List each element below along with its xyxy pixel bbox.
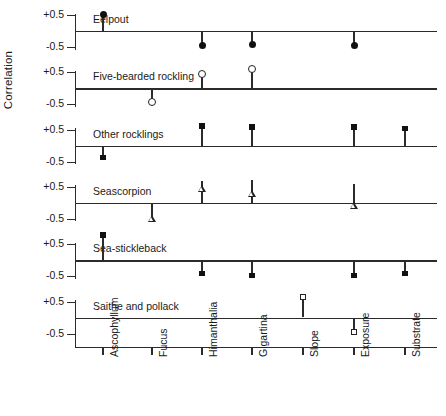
x-tick [151, 348, 152, 355]
x-tick [302, 348, 303, 355]
x-tick [353, 348, 354, 355]
data-stem [302, 298, 303, 318]
panel-saithe-and-pollack: +0.5-0.5Saithe and pollack [0, 0, 446, 416]
x-tick-label: Ascophyllum [108, 297, 120, 357]
x-tick [404, 348, 405, 355]
x-axis-line [75, 347, 437, 348]
x-tick-label: Exposure [359, 313, 371, 357]
data-point-marker [300, 294, 306, 300]
correlation-panel-chart: Correlation +0.5-0.5Eelpout+0.5-0.5Five-… [0, 0, 446, 416]
y-tick-label: -0.5 [19, 327, 64, 339]
x-tick-label: Substrate [410, 312, 422, 357]
y-axis-closing-line [75, 318, 76, 348]
x-tick-label: Fucus [157, 328, 169, 357]
panel-title: Saithe and pollack [93, 300, 179, 312]
y-tick-label: +0.5 [19, 295, 64, 307]
x-tick [102, 348, 103, 355]
y-tick [67, 302, 76, 303]
x-tick [251, 348, 252, 355]
x-tick-label: Slope [308, 330, 320, 357]
x-tick-label: Gigartina [257, 314, 269, 357]
x-tick [201, 348, 202, 355]
zero-line [75, 318, 437, 319]
data-point-marker [351, 329, 357, 335]
x-tick-label: Himanthalia [207, 302, 219, 357]
